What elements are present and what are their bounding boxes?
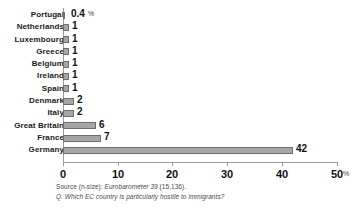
- bar-track: 7: [63, 132, 363, 144]
- bar-row: Greece 1: [0, 46, 363, 58]
- x-tick-label-40: 40: [276, 168, 288, 180]
- bar-value-germany: 42: [296, 143, 307, 155]
- category-label-luxembourg: Luxembourg: [15, 34, 64, 46]
- bar-track: 1: [63, 46, 363, 58]
- x-tick-label-0: 0: [60, 168, 66, 180]
- source-suffix: (15,136).: [160, 183, 186, 190]
- category-label-belgium: Belgium: [32, 58, 64, 70]
- x-axis-line: [63, 162, 338, 163]
- bar-track: 2: [63, 107, 363, 119]
- x-axis-tick: [172, 162, 173, 166]
- bar-value-portugal: 0.4%: [71, 8, 94, 20]
- bar-row: Italy 2: [0, 107, 363, 119]
- bar-row: Luxembourg 1: [0, 34, 363, 46]
- bar-track: 1: [63, 58, 363, 70]
- bar-value-great-britain: 6: [99, 119, 105, 131]
- bar-ireland: [63, 73, 69, 80]
- source-publication: Eurobarometer 39: [105, 183, 158, 190]
- bar-italy: [63, 110, 74, 117]
- x-tick-label-50: 50: [331, 168, 343, 180]
- bar-row: Great Britain 6: [0, 120, 363, 132]
- category-label-germany: Germany: [29, 144, 64, 156]
- bar-denmark: [63, 98, 74, 105]
- category-label-great-britain: Great Britain: [14, 120, 64, 132]
- bar-value-france: 7: [104, 131, 110, 143]
- percent-symbol: %: [88, 10, 94, 17]
- bar-netherlands: [63, 24, 69, 31]
- bar-value-text: 0.4: [71, 8, 85, 19]
- bar-value-ireland: 1: [72, 69, 78, 81]
- bar-greece: [63, 48, 69, 55]
- bar-row: Portugal 0.4%: [0, 9, 363, 21]
- question-note: Q. Which EC country is particularly host…: [56, 192, 356, 202]
- category-label-ireland: Ireland: [37, 70, 64, 82]
- chart-footnotes: Source (n-size): Eurobarometer 39 (15,13…: [56, 182, 356, 202]
- x-axis-tick: [118, 162, 119, 166]
- bar-value-luxembourg: 1: [72, 33, 78, 45]
- bar-track: 1: [63, 21, 363, 33]
- category-label-greece: Greece: [36, 46, 64, 58]
- source-prefix: Source (n-size):: [56, 183, 103, 190]
- category-label-denmark: Denmark: [29, 95, 64, 107]
- bar-track: 1: [63, 34, 363, 46]
- category-label-portugal: Portugal: [31, 9, 64, 21]
- bar-value-italy: 2: [77, 106, 83, 118]
- bar-row: France 7: [0, 132, 363, 144]
- x-axis-tick: [227, 162, 228, 166]
- bar-germany: [63, 147, 293, 154]
- category-label-france: France: [37, 132, 64, 144]
- bar-track: 42: [63, 144, 363, 156]
- bar-luxembourg: [63, 36, 69, 43]
- x-axis-tick: [282, 162, 283, 166]
- x-axis-tick: [337, 162, 338, 166]
- bar-rows: Portugal 0.4% Netherlands 1 Luxembourg 1: [0, 9, 363, 157]
- bar-spain: [63, 85, 69, 92]
- bar-belgium: [63, 61, 69, 68]
- bar-row: Denmark 2: [0, 95, 363, 107]
- bar-track: 0.4%: [63, 9, 363, 21]
- category-label-spain: Spain: [42, 83, 64, 95]
- x-tick-label-10: 10: [112, 168, 124, 180]
- bar-track: 1: [63, 70, 363, 82]
- bar-row: Belgium 1: [0, 58, 363, 70]
- bar-france: [63, 135, 101, 142]
- bar-value-denmark: 2: [77, 94, 83, 106]
- bar-value-netherlands: 1: [72, 20, 78, 32]
- x-axis-unit-label: %: [343, 170, 349, 177]
- bar-track: 1: [63, 83, 363, 95]
- bar-value-belgium: 1: [72, 57, 78, 69]
- category-label-italy: Italy: [47, 107, 64, 119]
- category-label-netherlands: Netherlands: [17, 21, 64, 33]
- bar-track: 2: [63, 95, 363, 107]
- x-axis-tick: [63, 162, 64, 166]
- bar-row: Netherlands 1: [0, 21, 363, 33]
- x-tick-label-30: 30: [221, 168, 233, 180]
- bar-value-spain: 1: [72, 82, 78, 94]
- bar-row: Ireland 1: [0, 70, 363, 82]
- bar-great-britain: [63, 122, 96, 129]
- bar-row: Germany 42: [0, 144, 363, 156]
- x-tick-label-20: 20: [166, 168, 178, 180]
- bar-chart: Portugal 0.4% Netherlands 1 Luxembourg 1: [0, 0, 363, 213]
- source-note: Source (n-size): Eurobarometer 39 (15,13…: [56, 182, 356, 192]
- bar-row: Spain 1: [0, 83, 363, 95]
- bar-portugal: [63, 12, 65, 19]
- bar-value-greece: 1: [72, 45, 78, 57]
